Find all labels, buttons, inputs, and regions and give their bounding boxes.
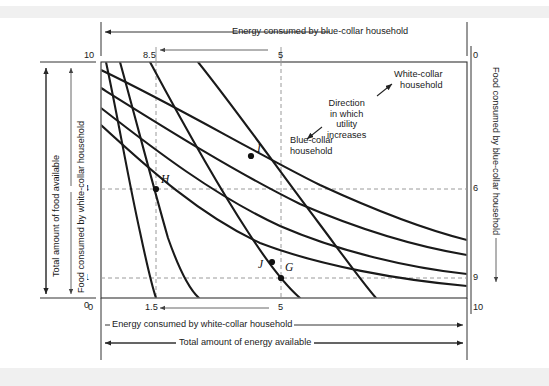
bottom-inner-axis-label: Energy consumed by white-collar househol…	[110, 319, 294, 330]
right-tick-6: 6	[473, 183, 478, 193]
point-label-j: J	[258, 258, 263, 270]
left-outer-axis-label: Total amount of food available	[51, 152, 62, 280]
point-label-i: I	[257, 142, 261, 154]
left-axis-rulers	[40, 62, 96, 298]
top-axis-label: Energy consumed by blue-collar household	[232, 26, 408, 37]
top-tick-5: 5	[278, 50, 283, 60]
point-label-h: H	[161, 173, 169, 185]
top-tick-0: 0	[473, 50, 478, 60]
white-collar-annotation-line2: household	[394, 80, 443, 91]
bottom-tick-1-5: 1.5	[145, 302, 158, 312]
blue-collar-annotation-line1: Blue-collar	[290, 135, 333, 146]
direction-annotation: Direction in which utility increases	[327, 98, 366, 140]
bottom-tick-5: 5	[278, 302, 283, 312]
right-axis-label: Food consumed by blue-collar household	[490, 64, 501, 238]
blue-collar-annotation: Blue-collar household	[290, 135, 333, 156]
bottom-outer-axis-label: Total amount of energy available	[176, 337, 314, 348]
right-tick-9: 9	[473, 272, 478, 282]
blue-collar-annotation-line2: household	[290, 146, 333, 157]
direction-annotation-line2: in which	[327, 109, 366, 120]
direction-annotation-line1: Direction	[327, 98, 366, 109]
white-collar-annotation: White-collar household	[394, 69, 443, 90]
point-label-g: G	[285, 261, 293, 273]
left-inner-axis-label: Food consumed by white-collar household	[76, 118, 87, 296]
direction-annotation-line3: utility	[327, 119, 366, 130]
figure-canvas: Energy consumed by blue-collar household…	[0, 0, 549, 386]
top-tick-10: 10	[84, 50, 94, 60]
left-tick-0: 0	[84, 300, 89, 310]
top-tick-8-5: 8.5	[143, 50, 156, 60]
white-collar-annotation-line1: White-collar	[394, 69, 443, 80]
bottom-tick-10: 10	[473, 302, 483, 312]
